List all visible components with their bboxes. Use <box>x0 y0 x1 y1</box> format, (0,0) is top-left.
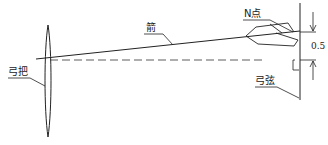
label-n-point: N点 <box>244 9 261 19</box>
arrow-fletching <box>246 23 298 46</box>
leader-n-point <box>243 20 293 32</box>
label-bowstring: 弓弦 <box>255 76 275 86</box>
label-bow-grip: 弓把 <box>8 67 28 77</box>
leader-bowstring <box>255 87 299 98</box>
bow-grip-shape <box>45 25 51 137</box>
dimension-value: 0.5 <box>311 42 325 51</box>
label-arrow: 箭 <box>146 23 156 33</box>
nocking-point-mark <box>293 60 299 70</box>
dimension-arrow-bottom <box>310 61 316 80</box>
leader-arrow <box>144 34 173 45</box>
diagram-drawing <box>0 0 328 145</box>
bow-arrow-diagram: 弓把 箭 N点 弓弦 0.5 <box>0 0 328 145</box>
leader-bow-grip <box>8 78 45 86</box>
arrow-shaft <box>36 31 300 59</box>
dimension-arrow-top <box>310 12 316 31</box>
